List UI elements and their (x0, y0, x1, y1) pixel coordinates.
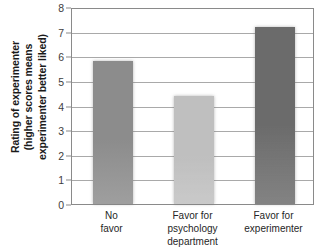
x-category-label: Favor forpsychologydepartment (154, 209, 231, 249)
x-category-label-line: experimenter (235, 222, 312, 235)
bar (174, 96, 214, 204)
y-tick-mark (66, 8, 71, 9)
y-tick-label: 7 (58, 27, 64, 38)
x-category-label-line: Favor for (154, 209, 231, 222)
x-axis-category-labels: NofavorFavor forpsychologydepartmentFavo… (71, 209, 314, 252)
y-tick-label: 0 (58, 200, 64, 211)
y-tick-mark (66, 180, 71, 181)
x-category-label-line: department (154, 235, 231, 248)
y-axis-title-line-3: experimenter better liked) (36, 34, 49, 160)
y-tick-label: 6 (58, 52, 64, 63)
y-tick-mark (66, 57, 71, 58)
y-tick-label: 4 (58, 101, 64, 112)
y-tick-mark (66, 106, 71, 107)
x-category-label-line: Favor for (235, 209, 312, 222)
x-category-label-line: psychology (154, 222, 231, 235)
y-axis-title: Rating of experimenter (higher scores me… (6, 4, 52, 190)
y-tick-mark (66, 131, 71, 132)
bars-group (72, 9, 313, 204)
y-tick-mark (66, 205, 71, 206)
y-tick-label: 8 (58, 3, 64, 14)
y-tick-label: 3 (58, 126, 64, 137)
y-tick-label: 5 (58, 77, 64, 88)
bar (255, 27, 295, 204)
y-tick-label: 2 (58, 151, 64, 162)
y-axis-tick-labels: 012345678 (50, 8, 64, 205)
y-tick-mark (66, 155, 71, 156)
y-axis-title-line-1: Rating of experimenter (9, 41, 22, 153)
x-category-label-line: favor (73, 222, 150, 235)
y-tick-mark (66, 32, 71, 33)
bar-chart: Rating of experimenter (higher scores me… (0, 0, 326, 252)
y-tick-label: 1 (58, 175, 64, 186)
bar (93, 61, 133, 204)
y-axis-title-line-2: (higher scores means (22, 44, 35, 151)
x-category-label: Nofavor (73, 209, 150, 235)
x-category-label-line: No (73, 209, 150, 222)
x-category-label: Favor forexperimenter (235, 209, 312, 235)
y-tick-mark (66, 81, 71, 82)
plot-area (71, 8, 314, 205)
